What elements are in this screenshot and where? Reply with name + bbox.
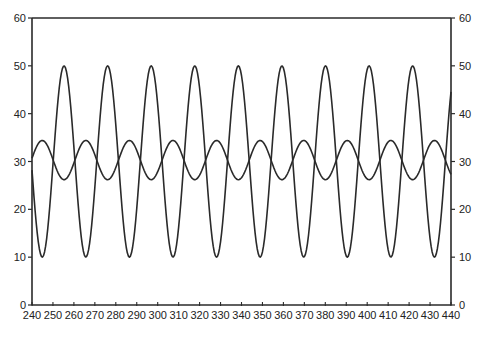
series-layer [32,66,451,257]
x-tick-label: 330 [211,309,229,321]
x-tick-label: 340 [232,309,250,321]
series-large-wave-line [32,66,451,257]
right-y-axis: 0102030405060 [451,12,471,311]
y-tick-label-right: 40 [459,108,471,120]
x-tick-label: 400 [358,309,376,321]
y-tick-label-left: 10 [14,251,26,263]
x-tick-label: 350 [253,309,271,321]
x-tick-label: 410 [379,309,397,321]
line-chart: 0102030405060 0102030405060 240250260270… [0,0,485,340]
x-tick-label: 260 [65,309,83,321]
x-tick-label: 310 [169,309,187,321]
x-tick-label: 380 [316,309,334,321]
x-tick-label: 430 [421,309,439,321]
x-tick-label: 290 [128,309,146,321]
x-tick-label: 250 [44,309,62,321]
x-tick-label: 280 [107,309,125,321]
y-tick-label-left: 30 [14,156,26,168]
x-tick-label: 390 [337,309,355,321]
x-tick-label: 300 [149,309,167,321]
plot-frame [32,18,451,305]
chart-canvas: 0102030405060 0102030405060 240250260270… [0,0,485,340]
x-tick-label: 360 [274,309,292,321]
series-small-wave-line [32,140,451,179]
y-tick-label-right: 20 [459,203,471,215]
x-tick-label: 370 [295,309,313,321]
x-tick-label: 320 [190,309,208,321]
y-tick-label-right: 30 [459,156,471,168]
y-tick-label-left: 60 [14,12,26,24]
x-tick-label: 240 [23,309,41,321]
y-tick-label-right: 10 [459,251,471,263]
y-tick-label-left: 20 [14,203,26,215]
y-tick-label-left: 40 [14,108,26,120]
x-tick-label: 440 [442,309,460,321]
x-tick-label: 270 [86,309,104,321]
y-tick-label-right: 60 [459,12,471,24]
y-tick-label-left: 50 [14,60,26,72]
x-tick-label: 420 [400,309,418,321]
left-y-axis: 0102030405060 [14,12,32,311]
y-tick-label-right: 50 [459,60,471,72]
